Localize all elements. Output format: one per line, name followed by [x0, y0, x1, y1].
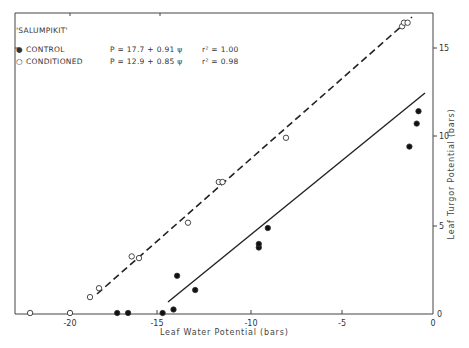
legend-r2: r² = 0.98: [202, 57, 239, 66]
conditioned-point: [283, 135, 288, 140]
conditioned-point: [27, 310, 32, 315]
legend: 'SALUMPIKIT' ● CONTROL P = 17.7 + 0.91 ψ…: [16, 26, 239, 67]
legend-equation: P = 17.7 + 0.91 ψ: [110, 45, 202, 54]
svg-text:0: 0: [430, 319, 435, 328]
conditioned-point: [185, 220, 190, 225]
conditioned-point: [220, 179, 225, 184]
x-tick-labels: -20 -15 -10 -5 0: [63, 319, 435, 328]
legend-r2: r² = 1.00: [202, 45, 239, 54]
control-point: [256, 241, 261, 246]
svg-text:-5: -5: [338, 319, 346, 328]
control-point: [174, 273, 179, 278]
svg-text:-15: -15: [150, 319, 163, 328]
conditioned-point: [96, 286, 101, 291]
svg-text:-20: -20: [63, 319, 76, 328]
control-point: [160, 310, 165, 315]
svg-text:15: 15: [439, 44, 449, 53]
y-axis-label: Leaf Turgor Potential (bars): [447, 109, 456, 240]
conditioned-point: [67, 310, 72, 315]
control-point: [416, 109, 421, 114]
x-axis-label: Leaf Water Potential (bars): [160, 328, 289, 337]
legend-label: CONDITIONED: [26, 57, 110, 66]
legend-item-control: ● CONTROL P = 17.7 + 0.91 ψ r² = 1.00: [16, 43, 239, 55]
svg-text:5: 5: [439, 222, 444, 231]
control-point: [125, 310, 130, 315]
conditioned-point: [129, 254, 134, 259]
conditioned-point: [136, 255, 141, 260]
svg-text:0: 0: [437, 310, 442, 319]
legend-label: CONTROL: [26, 45, 110, 54]
legend-item-conditioned: ○ CONDITIONED P = 12.9 + 0.85 ψ r² = 0.9…: [16, 55, 239, 67]
conditioned-point: [87, 294, 92, 299]
control-point: [171, 307, 176, 312]
control-point: [265, 225, 270, 230]
control-point: [193, 287, 198, 292]
control-point: [115, 310, 120, 315]
conditioned-point: [405, 20, 410, 25]
open-circle-icon: ○: [16, 57, 26, 66]
control-point: [407, 144, 412, 149]
filled-circle-icon: ●: [16, 45, 26, 54]
svg-text:-10: -10: [244, 319, 257, 328]
legend-equation: P = 12.9 + 0.85 ψ: [110, 57, 202, 66]
control-point: [414, 121, 419, 126]
legend-title: 'SALUMPIKIT': [16, 26, 239, 35]
